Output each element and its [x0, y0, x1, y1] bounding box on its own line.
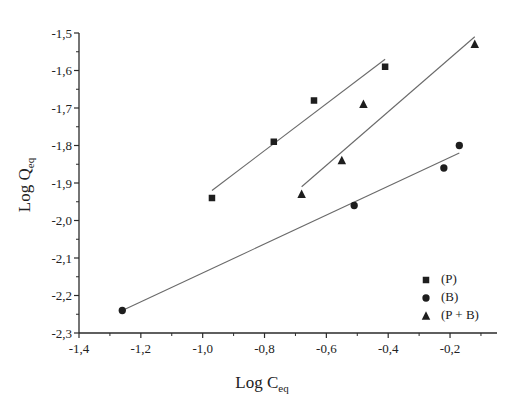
y-tick-label: -1,7 — [51, 101, 72, 116]
fit-line-circle — [122, 153, 459, 311]
x-tick-label: -0,2 — [440, 341, 461, 356]
x-tick-label: -0,6 — [316, 341, 337, 356]
legend-label: (B) — [441, 289, 458, 304]
legend: (P)(B)(P + B) — [422, 271, 479, 322]
legend-triangle-icon — [422, 311, 431, 320]
data-point-square — [271, 139, 278, 146]
x-tick-label: -0,4 — [378, 341, 399, 356]
y-tick-label: -1,8 — [51, 138, 72, 153]
data-point-square — [311, 97, 318, 104]
fit-line-triangle — [302, 37, 475, 187]
data-point-square — [209, 195, 216, 202]
data-points — [119, 40, 479, 315]
data-point-square — [382, 64, 389, 71]
y-tick-label: -2,0 — [51, 213, 72, 228]
x-axis-title: Log Ceq — [235, 373, 289, 394]
y-tick-label: -1,6 — [51, 63, 72, 78]
y-tick-label: -1,5 — [51, 26, 72, 41]
data-point-circle — [456, 142, 463, 149]
fit-lines — [122, 37, 474, 311]
x-tick-label: -1,4 — [69, 341, 90, 356]
data-point-triangle — [297, 190, 306, 199]
x-tick-label: -0,8 — [254, 341, 275, 356]
legend-label: (P) — [441, 271, 457, 286]
data-point-circle — [351, 202, 358, 209]
legend-label: (P + B) — [441, 307, 479, 322]
y-tick-label: -1,9 — [51, 176, 72, 191]
x-tick-label: -1,2 — [131, 341, 152, 356]
y-tick-label: -2,2 — [51, 288, 72, 303]
y-tick-label: -2,1 — [51, 251, 72, 266]
y-axis-title: Log Qeq — [15, 157, 36, 212]
fit-line-square — [212, 59, 385, 190]
data-point-triangle — [338, 156, 347, 165]
data-point-circle — [119, 307, 126, 314]
data-point-triangle — [359, 100, 368, 109]
legend-circle-icon — [422, 294, 429, 301]
data-point-circle — [440, 164, 447, 171]
data-point-triangle — [471, 40, 480, 49]
y-tick-label: -2,3 — [51, 326, 72, 341]
x-tick-label: -1,0 — [192, 341, 213, 356]
chart-canvas: -1,5-1,6-1,7-1,8-1,9-2,0-2,1-2,2-2,3-1,4… — [0, 0, 513, 408]
legend-square-icon — [423, 277, 430, 284]
